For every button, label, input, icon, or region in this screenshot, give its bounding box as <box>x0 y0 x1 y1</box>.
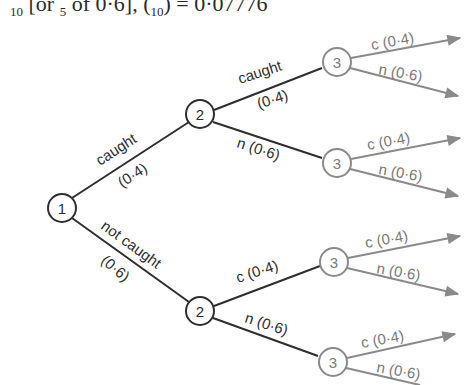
edge-label-caught: caught <box>92 129 140 168</box>
edge-1-not-caught <box>72 218 189 302</box>
node-1: 1 <box>48 194 76 222</box>
node-label: 3 <box>329 354 337 371</box>
node-label: 3 <box>330 254 338 271</box>
node-label: 1 <box>58 200 66 217</box>
node-2-top: 2 <box>186 100 214 128</box>
probability-tree-diagram: 1 2 2 3 3 3 3 caught (0·4) not caught (0… <box>0 0 465 385</box>
node-3c: 3 <box>320 248 348 276</box>
edge-label-n: n (0·6) <box>235 134 282 164</box>
edge-label-caught: caught <box>236 57 285 87</box>
node-3d: 3 <box>319 348 347 376</box>
node-2-bottom: 2 <box>186 297 214 325</box>
edge-label-n: n (0·6) <box>243 309 290 339</box>
edge-label-c: c (0·4) <box>370 29 416 53</box>
edge-label-n: n (0·6) <box>375 358 421 382</box>
node-label: 3 <box>333 155 341 172</box>
node-3b: 3 <box>323 149 351 177</box>
edge-label-c: c (0·4) <box>234 256 280 286</box>
edge-label-prob: (0·4) <box>114 159 150 191</box>
node-label: 3 <box>333 54 341 71</box>
node-label: 2 <box>196 106 204 123</box>
edge-label-prob: (0·6) <box>98 251 133 284</box>
edge-label-n: n (0·6) <box>375 259 421 283</box>
edge-label-n: n (0·6) <box>377 160 423 184</box>
node-3a: 3 <box>323 48 351 76</box>
node-label: 2 <box>196 303 204 320</box>
edge-label-n: n (0·6) <box>377 60 423 84</box>
edge-label-prob: (0·4) <box>255 86 290 112</box>
